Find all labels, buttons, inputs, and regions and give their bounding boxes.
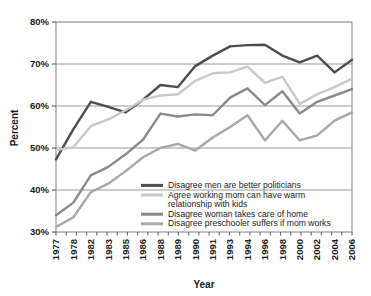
x-tick-label: 1998 (277, 239, 288, 260)
y-tick-label: 40% (30, 184, 50, 195)
y-tick-label: 50% (30, 142, 50, 153)
legend-label: Disagree men are better politicians (168, 180, 301, 190)
y-axis-title: Percent (9, 109, 20, 146)
x-tick-label: 2000 (294, 239, 305, 260)
x-tick-label: 2002 (311, 239, 322, 260)
x-tick-label: 2006 (346, 239, 357, 260)
legend-label: Agree working mom can have warm (168, 190, 305, 200)
legend-label-continued: relationship with kids (168, 199, 247, 209)
x-tick-label: 1982 (85, 239, 96, 260)
x-tick-label: 1989 (172, 239, 183, 260)
x-tick-label: 1978 (68, 239, 79, 260)
legend-label: Disagree preschooler suffers if mom work… (168, 218, 331, 228)
x-tick-label: 1988 (155, 239, 166, 260)
x-tick-label: 1985 (120, 238, 131, 260)
y-tick-label: 70% (30, 58, 50, 69)
y-tick-label: 30% (30, 226, 50, 237)
x-tick-label: 1977 (50, 239, 61, 260)
y-tick-label: 60% (30, 100, 50, 111)
x-tick-label: 1983 (103, 239, 114, 260)
x-tick-label: 1993 (224, 239, 235, 260)
chart-figure: 30%40%50%60%70%80% 197719781982198319851… (0, 0, 371, 296)
x-tick-label: 1994 (242, 238, 253, 260)
x-tick-label: 1990 (190, 239, 201, 260)
x-tick-label: 1991 (207, 238, 218, 260)
x-tick-label: 2004 (329, 238, 340, 260)
legend-label: Disagree woman takes care of home (168, 209, 308, 219)
x-axis-title: Year (193, 279, 214, 290)
line-chart: 30%40%50%60%70%80% 197719781982198319851… (0, 0, 371, 296)
x-tick-label: 1986 (137, 239, 148, 260)
x-tick-label: 1996 (259, 239, 270, 260)
y-tick-label: 80% (30, 16, 50, 27)
